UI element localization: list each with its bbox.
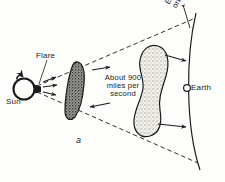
figure-caption: a: [76, 136, 81, 145]
earth-marker: [184, 85, 191, 92]
orbit-label-arrow: [184, 8, 190, 28]
flare-marker: [34, 85, 41, 94]
near-particle-cloud: [65, 62, 84, 120]
flare-particle-arrows: [43, 77, 57, 95]
sun-label: Sun: [6, 98, 21, 106]
flare-label: Flare: [36, 52, 55, 60]
speed-label: About 900 miles per second: [95, 74, 151, 98]
earth-label: Earth: [191, 84, 211, 92]
sun-symbol: [14, 75, 35, 99]
